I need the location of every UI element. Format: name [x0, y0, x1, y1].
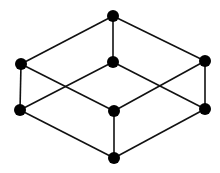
edge-left-upper-left-lower — [20, 64, 21, 110]
node-top — [107, 10, 119, 22]
node-center-upper — [107, 56, 119, 68]
edge-top-left-upper — [21, 16, 113, 64]
edge-left-lower-bottom — [20, 110, 114, 158]
edge-top-right-upper — [113, 16, 205, 61]
node-right-lower — [199, 103, 211, 115]
edge-right-lower-bottom — [114, 109, 205, 158]
node-center-lower — [108, 105, 120, 117]
graph-edges — [20, 16, 205, 158]
node-left-upper — [15, 58, 27, 70]
node-right-upper — [199, 55, 211, 67]
cube-graph-diagram — [0, 0, 220, 173]
node-bottom — [108, 152, 120, 164]
edge-left-upper-center-lower — [21, 64, 114, 111]
node-left-lower — [14, 104, 26, 116]
